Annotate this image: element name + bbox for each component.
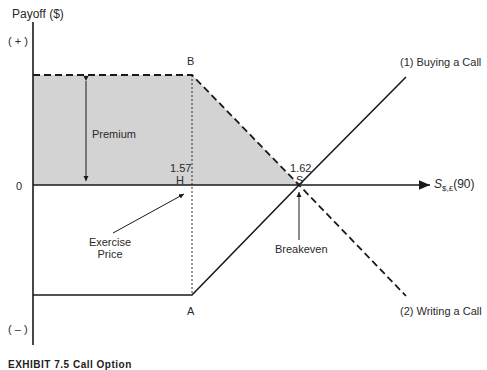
breakeven-label: Breakeven [275, 243, 328, 255]
x-axis-main: S [434, 177, 442, 191]
writing-call-label: (2) Writing a Call [400, 305, 482, 317]
x-axis-label: S$,£(90) [434, 178, 474, 195]
exercise-price-line1: Exercise [85, 236, 135, 248]
point-a-label: A [187, 305, 194, 317]
figure-caption: EXHIBIT 7.5 Call Option [8, 359, 132, 370]
exercise-price-label: Exercise Price [85, 236, 135, 260]
exercise-price-pointer [113, 194, 184, 233]
y-zero-label: 0 [16, 180, 22, 192]
y-plus-label: ( + ) [8, 35, 28, 47]
value-h-label: 1.57 [170, 162, 191, 174]
premium-shaded-area [33, 75, 299, 185]
exercise-price-line2: Price [85, 248, 135, 260]
x-axis-paren: (90) [453, 177, 474, 191]
value-s-label: 1.62 [290, 162, 311, 174]
y-axis-title: Payoff ($) [12, 8, 64, 20]
point-s-label: S [296, 174, 303, 186]
x-axis-sub: $,£ [442, 184, 453, 193]
y-minus-label: ( – ) [8, 323, 28, 335]
premium-label: Premium [92, 128, 136, 140]
point-b-label: B [187, 55, 194, 67]
point-h-label: H [176, 174, 184, 186]
buying-call-label: (1) Buying a Call [400, 56, 481, 68]
